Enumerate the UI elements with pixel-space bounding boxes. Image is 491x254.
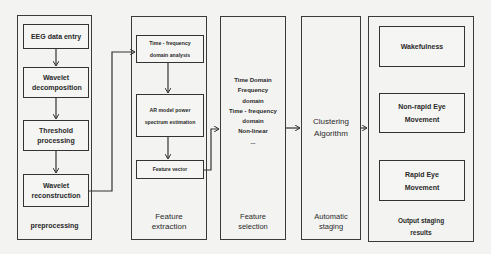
label-line: Output staging (368, 215, 474, 227)
feature-type-item: Time Domain (220, 75, 286, 85)
result-label: Non-rapid Eye Movement (391, 100, 453, 126)
label-line: extraction (131, 222, 207, 232)
output-label: Output staging results (368, 215, 474, 239)
step-label: Feature vector (153, 166, 187, 173)
clustering-algorithm-label: Clustering Algorithm (301, 116, 361, 140)
step-label: Time - frequency domain analysis (144, 37, 196, 61)
result-rapid-eye-movement: Rapid Eye Movement (379, 160, 465, 201)
step-label: Wavelet decomposition (32, 73, 80, 92)
step-feature-vector: Feature vector (136, 160, 204, 179)
feature-type-item: Time - frequency (220, 106, 286, 116)
label-line: Automatic (301, 212, 361, 222)
feature-selection-list: Time Domain Frequency domain Time - freq… (220, 75, 286, 147)
label-line: selection (220, 222, 286, 232)
step-label: Threshold processing (32, 126, 80, 145)
step-ar-model-estimation: AR model power spectrum estimation (136, 94, 204, 137)
feature-extraction-label: Feature extraction (131, 212, 207, 233)
automatic-staging-label: Automatic staging (301, 212, 361, 232)
step-label: Wavelet reconstruction (31, 181, 81, 200)
result-label: Wakefulness (401, 42, 444, 51)
feature-type-item: Non-linear (220, 126, 286, 136)
label-line: results (368, 227, 474, 239)
result-label: Rapid Eye Movement (399, 168, 445, 194)
step-threshold-processing: Threshold processing (23, 120, 89, 151)
feature-type-item: domain (220, 116, 286, 126)
feature-selection-label: Feature selection (220, 212, 286, 232)
label-line: Feature (220, 212, 286, 222)
result-non-rapid-eye-movement: Non-rapid Eye Movement (379, 93, 465, 133)
step-label: EEG data entry (31, 32, 81, 41)
preprocessing-label: preprocessing (17, 221, 92, 230)
label-line: staging (301, 222, 361, 232)
step-wavelet-reconstruction: Wavelet reconstruction (23, 174, 89, 207)
step-eeg-data-entry: EEG data entry (23, 24, 89, 49)
feature-type-item: domain (220, 96, 286, 106)
feature-type-item: ... (220, 137, 286, 147)
step-time-frequency-analysis: Time - frequency domain analysis (136, 35, 204, 63)
feature-type-item: Frequency (220, 85, 286, 95)
result-wakefulness: Wakefulness (379, 26, 465, 67)
step-label: AR model power spectrum estimation (140, 104, 200, 128)
label-line: Feature (131, 212, 207, 222)
label-line: Clustering (301, 116, 361, 128)
arrow-preprocessing-to-feature-extraction (89, 52, 135, 191)
step-wavelet-decomposition: Wavelet decomposition (23, 67, 89, 98)
label-line: Algorithm (301, 128, 361, 140)
